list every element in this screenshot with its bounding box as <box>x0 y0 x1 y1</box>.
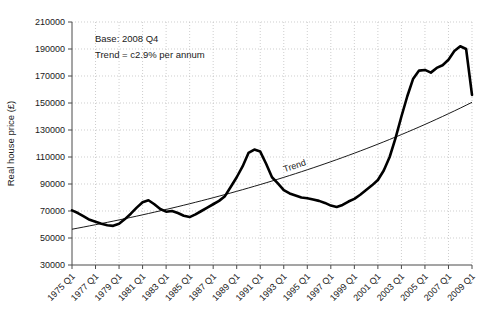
trend-rate-annotation: Trend = c2.9% per annum <box>95 49 205 60</box>
y-axis-title: Real house price (£) <box>5 101 16 187</box>
gridlines: 3000050000700009000011000013000015000017… <box>35 17 477 303</box>
trend-line <box>72 102 472 229</box>
y-axis-tick-label: 150000 <box>35 98 65 108</box>
real-house-price-series <box>72 46 472 226</box>
base-annotation: Base: 2008 Q4 <box>95 33 158 44</box>
y-axis-tick-label: 70000 <box>40 206 65 216</box>
y-axis-tick-label: 130000 <box>35 125 65 135</box>
y-axis-tick-label: 50000 <box>40 233 65 243</box>
y-axis-tick-label: 110000 <box>36 152 65 162</box>
y-axis-tick-label: 30000 <box>40 260 65 270</box>
chart-container: 3000050000700009000011000013000015000017… <box>0 0 486 318</box>
trend-line-label: Trend <box>282 157 307 174</box>
y-axis-tick-label: 190000 <box>35 44 65 54</box>
y-axis-tick-label: 170000 <box>35 71 65 81</box>
y-axis-tick-label: 210000 <box>35 17 65 27</box>
y-axis-tick-label: 90000 <box>40 179 65 189</box>
real-house-price-line-chart: 3000050000700009000011000013000015000017… <box>0 0 486 318</box>
